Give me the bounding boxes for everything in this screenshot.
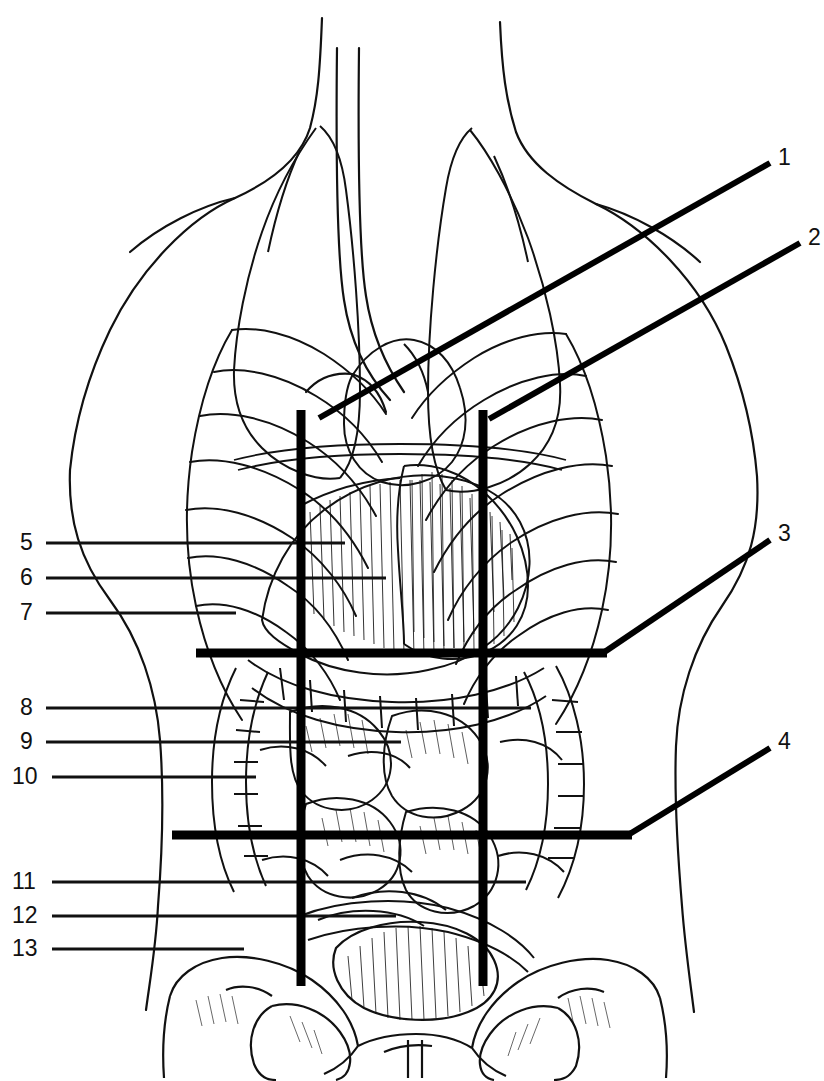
anatomy-line-art — [0, 0, 824, 1081]
trachea-outline — [306, 48, 404, 412]
label-8: 8 — [20, 696, 33, 719]
label-6: 6 — [20, 566, 33, 589]
bladder-hatching — [348, 926, 484, 1020]
label-5: 5 — [20, 531, 33, 554]
stomach-hatching — [412, 472, 514, 650]
leader-line-1 — [319, 163, 770, 418]
ascending-colon — [212, 668, 268, 892]
label-11: 11 — [12, 870, 36, 893]
label-7: 7 — [20, 601, 33, 624]
label-2: 2 — [808, 226, 821, 249]
leader-lines-right — [319, 163, 800, 835]
leader-line-3 — [603, 540, 770, 653]
label-10: 10 — [12, 765, 38, 788]
right-lung-outline — [428, 128, 560, 492]
transverse-colon — [248, 660, 546, 732]
label-4: 4 — [778, 730, 791, 753]
label-12: 12 — [12, 904, 38, 927]
small-intestine-coils — [260, 706, 564, 926]
torso-outline — [70, 18, 758, 1012]
anatomy-figure: 5 6 7 8 9 10 11 12 13 1 2 3 4 — [0, 0, 824, 1081]
label-9: 9 — [20, 730, 33, 753]
nine-region-grid — [172, 410, 632, 986]
pelvis-ilium-left — [163, 957, 358, 1078]
label-13: 13 — [12, 937, 38, 960]
sacrum — [358, 1034, 472, 1052]
rib-cage-left — [186, 329, 386, 720]
heart-outline — [344, 339, 466, 485]
sigmoid-colon — [300, 901, 534, 972]
leader-line-2 — [489, 243, 800, 419]
urinary-bladder — [333, 922, 498, 1020]
label-1: 1 — [778, 146, 791, 169]
label-3: 3 — [778, 522, 791, 545]
diaphragm-outline — [234, 444, 566, 470]
leader-line-4 — [628, 748, 770, 835]
